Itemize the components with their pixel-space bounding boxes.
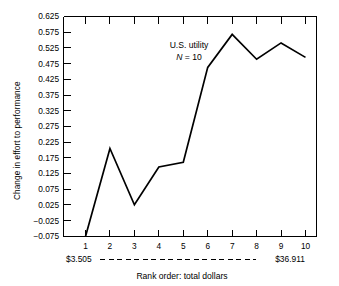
dollar-range-row: $3.505 $36.911 [66, 254, 305, 264]
x-tick-label: 7 [230, 241, 235, 251]
x-tick-label: 4 [156, 241, 161, 251]
x-tick-label: 3 [132, 241, 137, 251]
y-tick-label: 0.325 [38, 106, 59, 116]
y-tick-label: 0.525 [38, 43, 59, 53]
y-tick-label: 0.475 [38, 59, 59, 69]
y-axis-title: Change in effort to performance [13, 81, 22, 200]
chart-figure: 0.625 0.575 0.525 0.475 0.425 0.375 0.32… [0, 0, 339, 286]
y-tick-labels: 0.625 0.575 0.525 0.475 0.425 0.375 0.32… [33, 11, 59, 241]
annotation-line-2: N = 10 [176, 52, 202, 62]
x-tick-label: 2 [108, 241, 113, 251]
x-tick-label: 5 [181, 241, 186, 251]
y-tick-label: 0.575 [38, 27, 59, 37]
y-tick-label: 0.225 [38, 137, 59, 147]
x-tick-label: 9 [279, 241, 284, 251]
range-left-label: $3.505 [66, 254, 92, 264]
y-tick-label: 0.175 [38, 153, 59, 163]
annotation-line-1: U.S. utility [170, 40, 209, 50]
line-chart-svg: 0.625 0.575 0.525 0.475 0.425 0.375 0.32… [0, 0, 339, 286]
y-tick-label: 0.075 [38, 184, 59, 194]
x-tick-label: 1 [83, 241, 88, 251]
x-tick-label: 10 [301, 241, 311, 251]
y-tick-label: 0.125 [38, 168, 59, 178]
y-tick-label: 0.375 [38, 90, 59, 100]
annotation-n-value: = 10 [182, 52, 202, 62]
x-tick-label: 6 [205, 241, 210, 251]
range-right-label: $36.911 [275, 254, 305, 264]
y-tick-label: 0.025 [38, 200, 59, 210]
y-tick-label: 0.275 [38, 121, 59, 131]
y-tick-label: 0.425 [38, 74, 59, 84]
y-tick-label: −0.075 [33, 231, 59, 241]
y-tick-label: −0.025 [33, 216, 59, 226]
y-tick-marks [64, 32, 71, 220]
y-tick-label: 0.625 [38, 11, 59, 21]
x-tick-labels: 1 2 3 4 5 6 7 8 9 10 [83, 241, 310, 251]
data-series-line [86, 34, 306, 236]
chart-annotation: U.S. utility N = 10 [170, 40, 209, 62]
x-axis-title: Rank order: total dollars [136, 271, 227, 281]
x-tick-label: 8 [254, 241, 259, 251]
